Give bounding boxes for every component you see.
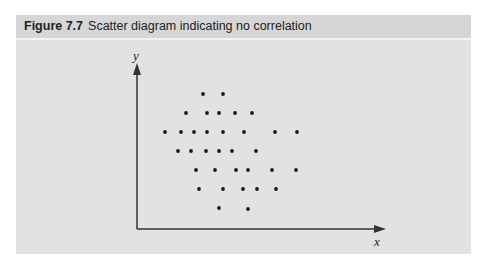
data-point — [184, 111, 188, 115]
data-point — [213, 168, 217, 172]
data-point — [205, 111, 209, 115]
data-point — [221, 92, 225, 96]
data-point — [255, 187, 259, 191]
data-point — [230, 149, 234, 153]
data-point — [270, 168, 274, 172]
data-point — [274, 187, 278, 191]
x-axis-arrow-icon — [374, 225, 386, 233]
data-point — [204, 149, 208, 153]
data-point — [217, 111, 221, 115]
y-axis: y — [131, 48, 141, 229]
data-point — [217, 206, 221, 210]
data-point — [192, 130, 196, 134]
data-point — [246, 168, 250, 172]
data-point — [246, 207, 250, 211]
x-axis-label: x — [373, 234, 380, 249]
data-point — [221, 187, 225, 191]
data-point — [254, 149, 258, 153]
y-axis-arrow-icon — [133, 63, 141, 75]
data-points — [163, 92, 299, 211]
data-point — [233, 111, 237, 115]
data-point — [179, 130, 183, 134]
data-point — [205, 130, 209, 134]
data-point — [241, 187, 245, 191]
y-axis-label: y — [131, 48, 139, 63]
data-point — [201, 92, 205, 96]
data-point — [242, 130, 246, 134]
x-axis: x — [137, 225, 386, 249]
data-point — [197, 187, 201, 191]
data-point — [189, 149, 193, 153]
data-point — [221, 130, 225, 134]
data-point — [194, 168, 198, 172]
data-point — [294, 168, 298, 172]
data-point — [176, 149, 180, 153]
data-point — [273, 130, 277, 134]
data-point — [217, 149, 221, 153]
data-point — [295, 130, 299, 134]
data-point — [250, 111, 254, 115]
data-point — [234, 168, 238, 172]
data-point — [163, 130, 167, 134]
scatter-plot: y x — [0, 0, 485, 264]
